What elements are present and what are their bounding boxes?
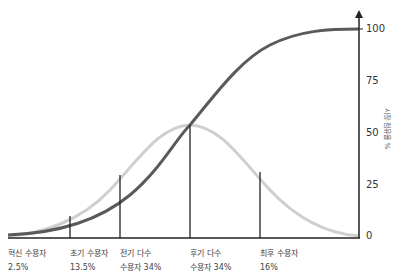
y-axis-label: 시장 점유율 % [383, 108, 393, 149]
y-axis-arrow-icon [355, 10, 363, 18]
category-label-early-majority: 전기 다수 수용자 34% [120, 247, 161, 275]
y-tick-50: 50 [366, 127, 379, 139]
bell-curve [8, 125, 359, 236]
category-label-early-adopters: 초기 수용자 13.5% [70, 247, 108, 275]
y-tick-25: 25 [366, 179, 379, 191]
category-label-innovators: 혁신 수용자 2.5% [8, 247, 46, 275]
category-label-late-majority: 후기 다수 수용자 34% [190, 247, 231, 275]
category-label-laggards: 최후 수용자 16% [260, 247, 298, 275]
y-tick-75: 75 [366, 75, 379, 87]
chart-canvas [0, 0, 402, 280]
y-tick-100: 100 [366, 23, 385, 35]
y-tick-0: 0 [366, 230, 372, 242]
s-curve [8, 29, 359, 235]
